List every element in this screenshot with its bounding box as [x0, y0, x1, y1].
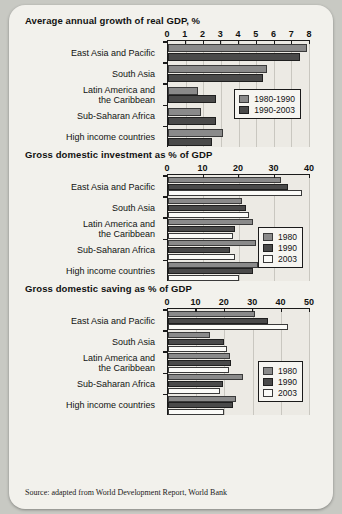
legend-label: 2003: [278, 254, 297, 264]
legend-item: 2003: [263, 387, 297, 398]
chart-panel-0: Average annual growth of real GDP, % 012…: [19, 15, 323, 147]
bar-2003-1: [168, 212, 249, 218]
category-labels-1: East Asia and PacificSouth AsiaLatin Ame…: [19, 175, 159, 281]
x-tick-mark: [224, 308, 225, 312]
legend-swatch-icon: [263, 367, 273, 375]
chart-panel-1: Gross domestic investment as % of GDP 01…: [19, 149, 323, 281]
plot-area-1: 198019902003: [167, 175, 309, 281]
bar-1990-1: [168, 339, 224, 345]
x-tick-mark: [203, 40, 204, 44]
legend-item: 1990-2003: [239, 104, 295, 115]
chart-plot-2: 01020304050 East Asia and PacificSouth A…: [19, 297, 323, 415]
x-tick-label: 30: [268, 163, 278, 173]
gridline: [309, 175, 310, 281]
x-tick-mark: [220, 40, 221, 44]
x-tick-mark: [195, 308, 196, 312]
bar-1980-1990-2: [168, 87, 198, 95]
category-label: East Asia and Pacific: [71, 48, 155, 58]
x-tick-label: 30: [247, 297, 257, 307]
bar-1980-2: [168, 219, 253, 225]
bar-1990-0: [168, 184, 288, 190]
chart-plot-0: 012345678 East Asia and PacificSouth Asi…: [19, 29, 323, 147]
x-tick-mark: [238, 40, 239, 44]
category-tick: [163, 62, 168, 64]
bar-1990-3: [168, 247, 230, 253]
bar-2003-4: [168, 409, 224, 415]
bar-1980-4: [168, 396, 236, 402]
category-label: Latin America andthe Caribbean: [83, 219, 155, 239]
bar-1990-2003-3: [168, 117, 216, 125]
bar-1990-0: [168, 318, 268, 324]
category-label: Latin America andthe Caribbean: [83, 353, 155, 373]
gridline: [309, 309, 310, 415]
category-label: High income countries: [66, 132, 155, 142]
bar-2003-0: [168, 190, 302, 196]
legend-label: 1990: [278, 377, 297, 387]
bar-2003-2: [168, 367, 229, 373]
x-tick-label: 40: [304, 163, 314, 173]
bar-1980-2: [168, 353, 230, 359]
category-label: Latin America andthe Caribbean: [83, 85, 155, 105]
bar-1990-3: [168, 381, 223, 387]
x-tick-mark: [252, 308, 253, 312]
plot-area-2: 198019902003: [167, 309, 309, 415]
legend-label: 1980: [278, 366, 297, 376]
bar-2003-3: [168, 388, 220, 394]
x-tick-label: 3: [218, 29, 223, 39]
category-labels-2: East Asia and PacificSouth AsiaLatin Ame…: [19, 309, 159, 415]
x-tick-label: 20: [233, 163, 243, 173]
bar-2003-3: [168, 254, 235, 260]
category-label: Sub-Saharan Africa: [77, 111, 155, 121]
legend-label: 2003: [278, 388, 297, 398]
figure-card: Average annual growth of real GDP, % 012…: [9, 5, 333, 509]
x-tick-label: 2: [200, 29, 205, 39]
legend-item: 1980: [263, 231, 297, 242]
bar-1990-2003-1: [168, 74, 263, 82]
legend-label: 1990: [278, 243, 297, 253]
chart-panel-2: Gross domestic saving as % of GDP 010203…: [19, 283, 323, 415]
x-tick-label: 7: [289, 29, 294, 39]
chart-legend-0: 1980-19901990-2003: [234, 89, 301, 119]
figure-inner: Average annual growth of real GDP, % 012…: [9, 5, 333, 509]
category-tick: [163, 105, 168, 107]
bar-1990-1: [168, 205, 246, 211]
x-tick-mark: [291, 40, 292, 44]
bar-2003-0: [168, 324, 288, 330]
legend-swatch-icon: [263, 233, 273, 241]
x-tick-mark: [256, 40, 257, 44]
bar-1980-1990-4: [168, 129, 223, 137]
x-tick-label: 5: [253, 29, 258, 39]
bar-1990-4: [168, 402, 233, 408]
bar-1980-4: [168, 262, 258, 268]
x-tick-label: 0: [164, 297, 169, 307]
legend-item: 2003: [263, 253, 297, 264]
x-tick-label: 8: [306, 29, 311, 39]
legend-item: 1990: [263, 376, 297, 387]
x-tick-label: 1: [182, 29, 187, 39]
x-tick-label: 50: [304, 297, 314, 307]
bar-1990-2003-0: [168, 53, 300, 61]
category-labels-0: East Asia and PacificSouth AsiaLatin Ame…: [19, 41, 159, 147]
x-axis-tick-labels-2: 01020304050: [167, 297, 309, 308]
x-tick-mark: [167, 40, 168, 44]
bar-2003-1: [168, 346, 227, 352]
x-tick-mark: [185, 40, 186, 44]
bar-1980-0: [168, 311, 255, 317]
category-label: High income countries: [66, 266, 155, 276]
bar-1980-1: [168, 198, 242, 204]
category-label: East Asia and Pacific: [71, 182, 155, 192]
legend-item: 1990: [263, 242, 297, 253]
chart-legend-1: 198019902003: [258, 227, 303, 268]
legend-swatch-icon: [263, 389, 273, 397]
chart-title-1: Gross domestic investment as % of GDP: [25, 149, 323, 160]
bar-1980-1990-3: [168, 108, 201, 116]
category-tick: [163, 83, 168, 85]
x-tick-mark: [167, 308, 168, 312]
bar-1980-3: [168, 240, 256, 246]
x-tick-label: 20: [219, 297, 229, 307]
legend-swatch-icon: [263, 244, 273, 252]
x-tick-label: 6: [271, 29, 276, 39]
category-label: High income countries: [66, 400, 155, 410]
bar-1980-1990-1: [168, 65, 267, 73]
bar-1980-0: [168, 177, 281, 183]
